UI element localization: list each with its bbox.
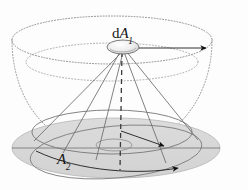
label-dA1-prefix: d bbox=[112, 25, 120, 41]
base-disk-A2 bbox=[12, 118, 220, 178]
radiation-view-factor-figure: dA1 A2 bbox=[0, 0, 248, 190]
label-A2-subscript: 2 bbox=[66, 162, 71, 172]
label-dA1-subscript: 1 bbox=[128, 36, 133, 46]
label-A2-symbol: A bbox=[57, 151, 66, 167]
label-target-area-A2: A2 bbox=[57, 152, 71, 170]
label-source-area-dA1: dA1 bbox=[112, 26, 133, 44]
